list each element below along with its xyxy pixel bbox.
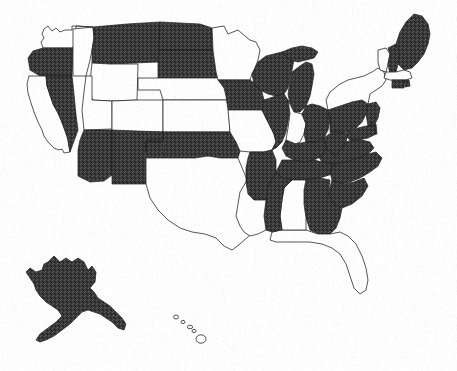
- state-SD[interactable]: [158, 50, 218, 78]
- us-choropleth-map-figure: [0, 0, 457, 371]
- state-OR[interactable]: [28, 48, 73, 76]
- state-CO[interactable]: [112, 100, 163, 132]
- us-map-svg: [0, 0, 457, 371]
- state-ND[interactable]: [159, 22, 213, 50]
- state-AZ[interactable]: [78, 130, 112, 182]
- state-CT[interactable]: [392, 80, 404, 88]
- state-KS[interactable]: [163, 100, 230, 132]
- state-WY[interactable]: [90, 63, 138, 101]
- state-RI[interactable]: [404, 80, 410, 87]
